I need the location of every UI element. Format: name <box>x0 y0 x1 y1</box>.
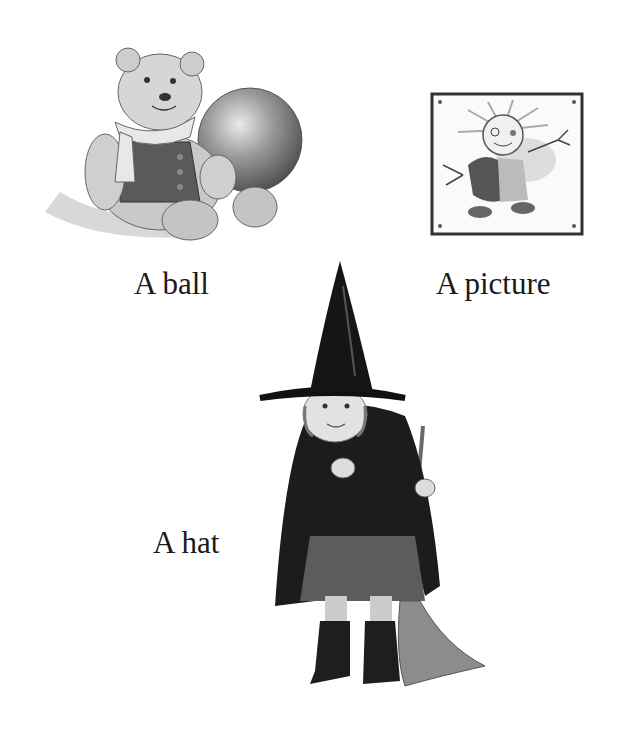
teddy-bear-ball-illustration <box>40 42 310 247</box>
witch-child-illustration <box>255 256 495 696</box>
framed-picture-illustration <box>428 90 588 240</box>
ball-label: A ball <box>134 268 209 299</box>
hat-label: A hat <box>153 527 219 558</box>
